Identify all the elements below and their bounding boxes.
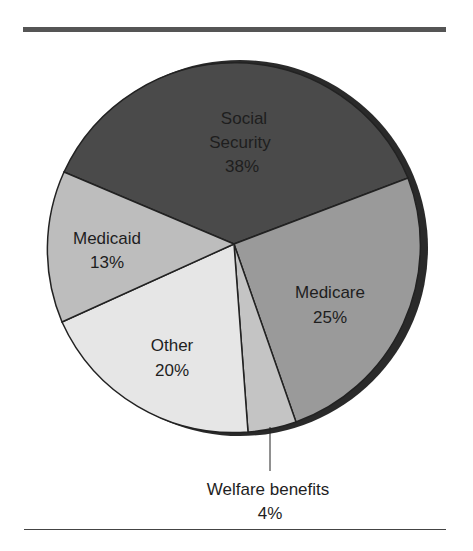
label-medicare: Medicare [295, 283, 365, 302]
label-medicaid-pct: 13% [90, 253, 124, 272]
label-social-security: Social [221, 109, 267, 128]
label-social-security-2: Security [209, 133, 271, 152]
label-welfare-pct: 4% [258, 504, 283, 523]
label-social-security-pct: 38% [225, 157, 259, 176]
pie-chart: Social Security 38% Medicare 25% Medicai… [0, 0, 473, 551]
label-other-pct: 20% [155, 361, 189, 380]
label-medicare-pct: 25% [313, 308, 347, 327]
label-other: Other [151, 336, 194, 355]
bottom-rule [24, 529, 446, 530]
label-medicaid: Medicaid [73, 229, 141, 248]
label-welfare: Welfare benefits [207, 480, 330, 499]
